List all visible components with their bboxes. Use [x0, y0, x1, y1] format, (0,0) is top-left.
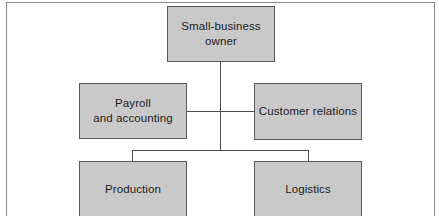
node-logistics: Logistics: [254, 161, 362, 216]
node-small-business-owner: Small-business owner: [167, 6, 275, 62]
connector-drop-production: [132, 150, 133, 161]
node-label: Logistics: [285, 182, 331, 197]
node-customer-relations: Customer relations: [254, 83, 362, 140]
node-payroll-and-accounting: Payroll and accounting: [79, 83, 187, 139]
node-production: Production: [79, 161, 187, 216]
node-label: Production: [105, 182, 161, 197]
connector-bottom-horizontal: [132, 150, 309, 151]
node-label: Customer relations: [259, 104, 357, 119]
connector-drop-logistics: [308, 150, 309, 161]
connector-trunk: [220, 61, 221, 151]
node-label: Payroll and accounting: [93, 96, 172, 126]
connector-middle-horizontal: [187, 111, 254, 112]
node-label: Small-business owner: [181, 19, 260, 49]
